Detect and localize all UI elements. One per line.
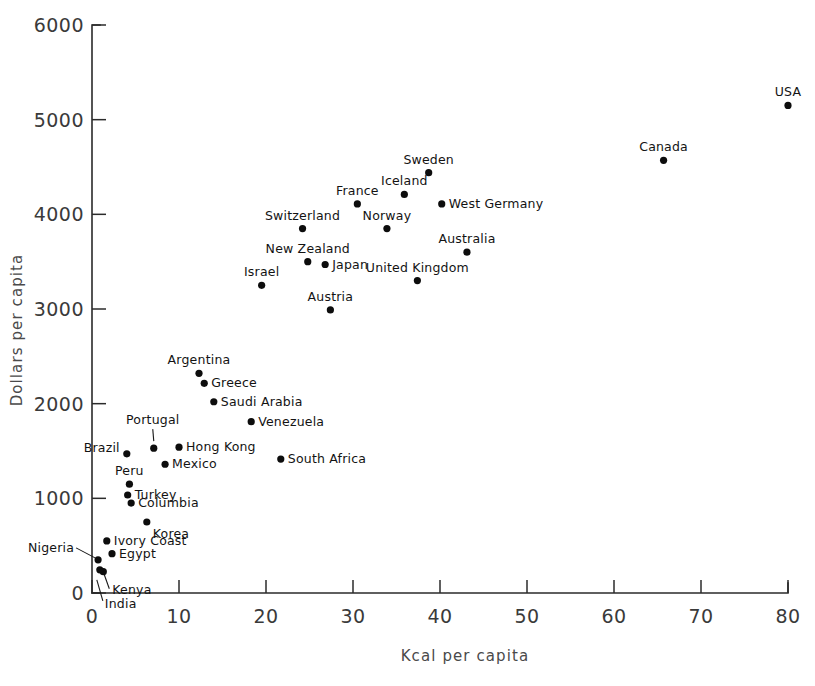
y-tick-label: 0 bbox=[71, 582, 84, 604]
x-axis-title: Kcal per capita bbox=[401, 647, 530, 665]
data-point-label: Sweden bbox=[403, 152, 454, 167]
data-point bbox=[143, 518, 150, 525]
data-point bbox=[438, 200, 445, 207]
x-tick-label: 20 bbox=[253, 605, 278, 627]
data-point-label: New Zealand bbox=[266, 241, 350, 256]
x-tick-label: 80 bbox=[775, 605, 800, 627]
x-tick-label: 30 bbox=[340, 605, 365, 627]
x-tick-label: 40 bbox=[427, 605, 452, 627]
data-point bbox=[210, 398, 217, 405]
y-tick-label: 3000 bbox=[34, 298, 84, 320]
data-point bbox=[463, 249, 470, 256]
data-point-label: India bbox=[105, 596, 137, 611]
data-point bbox=[327, 306, 334, 313]
data-point-label: Greece bbox=[211, 375, 257, 390]
data-point bbox=[128, 499, 135, 506]
scatter-chart: 0100020003000400050006000 01020304050607… bbox=[0, 0, 815, 686]
data-point bbox=[784, 102, 791, 109]
data-point bbox=[103, 537, 110, 544]
data-point-label: United Kingdom bbox=[366, 260, 469, 275]
x-axis-ticks: 01020304050607080 bbox=[86, 580, 801, 627]
data-point bbox=[96, 566, 103, 573]
data-points bbox=[94, 102, 791, 575]
data-point bbox=[322, 261, 329, 268]
data-point bbox=[258, 282, 265, 289]
data-point bbox=[161, 461, 168, 468]
leader-line bbox=[104, 575, 109, 589]
data-point-label: West Germany bbox=[449, 196, 544, 211]
data-point-label: Israel bbox=[244, 264, 279, 279]
data-point-label: Mexico bbox=[172, 456, 217, 471]
data-point bbox=[195, 370, 202, 377]
data-point-label: Kenya bbox=[112, 582, 151, 597]
plot-canvas: 0100020003000400050006000 01020304050607… bbox=[0, 0, 815, 686]
data-point bbox=[201, 380, 208, 387]
data-point-label: Switzerland bbox=[265, 208, 340, 223]
label-leader-lines bbox=[76, 429, 154, 601]
data-point-label: Portugal bbox=[126, 412, 179, 427]
data-point-label: Columbia bbox=[138, 495, 199, 510]
data-point-label: Peru bbox=[115, 463, 144, 478]
data-point-label: Austria bbox=[308, 289, 354, 304]
data-point-label: Saudi Arabia bbox=[221, 394, 303, 409]
x-tick-label: 0 bbox=[86, 605, 99, 627]
data-point bbox=[123, 450, 130, 457]
data-point-label: Egypt bbox=[119, 546, 156, 561]
data-point bbox=[383, 225, 390, 232]
x-tick-label: 50 bbox=[514, 605, 539, 627]
data-point-label: Nigeria bbox=[28, 540, 74, 555]
data-point bbox=[248, 418, 255, 425]
data-point bbox=[277, 455, 284, 462]
data-point-label: Brazil bbox=[84, 440, 120, 455]
data-point-label: USA bbox=[775, 84, 802, 99]
data-point bbox=[175, 444, 182, 451]
data-point-label: Norway bbox=[363, 208, 412, 223]
x-tick-label: 70 bbox=[688, 605, 713, 627]
y-tick-label: 4000 bbox=[34, 203, 84, 225]
y-axis-title: Dollars per capita bbox=[8, 254, 26, 407]
data-point bbox=[401, 191, 408, 198]
leader-line bbox=[97, 580, 103, 601]
data-point bbox=[660, 157, 667, 164]
data-point bbox=[108, 550, 115, 557]
data-point bbox=[126, 481, 133, 488]
data-point-labels: USACanadaSwedenIcelandFranceWest Germany… bbox=[28, 84, 802, 610]
leader-line bbox=[153, 429, 154, 441]
x-tick-label: 10 bbox=[166, 605, 191, 627]
data-point bbox=[150, 445, 157, 452]
data-point-label: Canada bbox=[639, 139, 688, 154]
data-point-label: Argentina bbox=[168, 352, 231, 367]
y-axis-ticks: 0100020003000400050006000 bbox=[34, 14, 106, 604]
data-point-label: Venezuela bbox=[258, 414, 324, 429]
data-point-label: Japan bbox=[331, 257, 368, 272]
data-point-label: Hong Kong bbox=[186, 439, 256, 454]
y-tick-label: 5000 bbox=[34, 109, 84, 131]
y-tick-label: 1000 bbox=[34, 487, 84, 509]
data-point bbox=[94, 556, 101, 563]
data-point bbox=[299, 225, 306, 232]
y-tick-label: 2000 bbox=[34, 393, 84, 415]
data-point bbox=[354, 200, 361, 207]
x-tick-label: 60 bbox=[601, 605, 626, 627]
data-point-label: France bbox=[336, 183, 379, 198]
data-point-label: South Africa bbox=[288, 451, 366, 466]
data-point-label: Iceland bbox=[381, 173, 428, 188]
data-point bbox=[124, 491, 131, 498]
data-point bbox=[304, 258, 311, 265]
data-point bbox=[414, 277, 421, 284]
y-tick-label: 6000 bbox=[34, 14, 84, 36]
data-point-label: Australia bbox=[438, 231, 495, 246]
